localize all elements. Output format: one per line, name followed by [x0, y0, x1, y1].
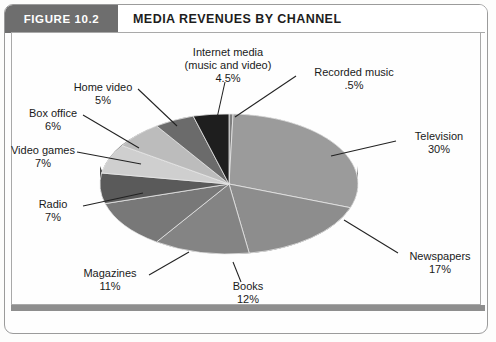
figure-container: FIGURE 10.2 MEDIA REVENUES BY CHANNEL — [0, 0, 496, 342]
figure-title: MEDIA REVENUES BY CHANNEL — [133, 12, 342, 26]
label-television: Television 30% — [400, 130, 478, 156]
label-box-office-value: 6% — [23, 120, 83, 133]
label-television-value: 30% — [400, 143, 478, 156]
label-recorded-music-name: Recorded music — [300, 66, 408, 79]
label-internet-media-note: (music and video) — [163, 59, 293, 72]
leader-line-magazines — [149, 252, 189, 275]
leader-line-books — [233, 262, 241, 282]
label-radio: Radio 7% — [25, 198, 81, 224]
label-newspapers-name: Newspapers — [399, 250, 481, 263]
label-magazines: Magazines 11% — [71, 267, 149, 293]
pie-chart: Internet media (music and video) 4.5% Re… — [11, 34, 481, 304]
header-divider — [11, 32, 485, 33]
label-books-name: Books — [217, 280, 279, 293]
leader-line-newspapers — [344, 220, 398, 253]
pie-slices — [100, 114, 358, 254]
label-magazines-name: Magazines — [71, 267, 149, 280]
label-television-name: Television — [400, 130, 478, 143]
label-recorded-music-value: .5% — [300, 79, 408, 92]
leader-line-internet-media — [217, 82, 225, 118]
label-newspapers: Newspapers 17% — [399, 250, 481, 276]
label-box-office: Box office 6% — [23, 107, 83, 133]
figure-title-container: MEDIA REVENUES BY CHANNEL — [133, 5, 342, 33]
label-radio-value: 7% — [25, 211, 81, 224]
label-internet-media-value: 4.5% — [163, 72, 293, 85]
leader-line-home-video — [138, 89, 177, 126]
label-books: Books 12% — [217, 280, 279, 306]
label-internet-media-name: Internet media — [163, 46, 293, 59]
leader-line-box-office — [83, 115, 139, 148]
label-recorded-music: Recorded music .5% — [300, 66, 408, 92]
label-video-games: Video games 7% — [9, 144, 77, 170]
figure-bottom-bar — [11, 305, 485, 311]
figure-number-tab: FIGURE 10.2 — [5, 5, 118, 33]
label-radio-name: Radio — [25, 198, 81, 211]
label-home-video-name: Home video — [68, 81, 138, 94]
label-video-games-name: Video games — [9, 144, 77, 157]
figure-header: FIGURE 10.2 MEDIA REVENUES BY CHANNEL — [5, 5, 487, 33]
label-home-video-value: 5% — [68, 94, 138, 107]
label-magazines-value: 11% — [71, 280, 149, 293]
label-internet-media: Internet media (music and video) 4.5% — [163, 46, 293, 85]
label-newspapers-value: 17% — [399, 263, 481, 276]
figure-number-label: FIGURE 10.2 — [24, 13, 100, 25]
label-box-office-name: Box office — [23, 107, 83, 120]
label-video-games-value: 7% — [9, 157, 77, 170]
label-home-video: Home video 5% — [68, 81, 138, 107]
